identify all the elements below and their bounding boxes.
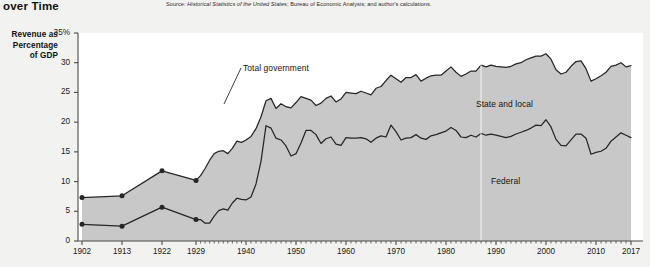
x-axis-tick-label: 1980 [428, 247, 464, 256]
annotation-total-government: Total government [243, 63, 309, 73]
annotation-state-and-local: State and local [476, 99, 533, 109]
x-axis-tick-label: 1929 [178, 247, 214, 256]
x-axis-tick-label: 1902 [64, 247, 100, 256]
marker-federal [160, 205, 165, 210]
y-axis-tick-label: 30 [24, 58, 70, 67]
x-axis-tick-label: 2017 [613, 247, 649, 256]
x-axis-tick-label: 1960 [328, 247, 364, 256]
x-axis-tick-label: 2000 [528, 247, 564, 256]
chart-svg [0, 0, 650, 267]
x-axis-tick-label: 1970 [378, 247, 414, 256]
marker-total-government [80, 195, 85, 200]
marker-total-government [160, 168, 165, 173]
x-axis-tick-label: 1990 [478, 247, 514, 256]
marker-federal [120, 224, 125, 229]
x-axis-tick-label: 1922 [144, 247, 180, 256]
x-axis-tick-label: 2010 [578, 247, 614, 256]
y-axis-tick-label: 10 [24, 177, 70, 186]
x-axis-tick-label: 1940 [228, 247, 264, 256]
y-axis-tick-label: 0 [24, 236, 70, 245]
plot-area [0, 0, 650, 267]
y-axis-tick-label: 20 [24, 117, 70, 126]
marker-federal [80, 222, 85, 227]
marker-total-government [120, 193, 125, 198]
annotation-federal: Federal [491, 176, 520, 186]
marker-total-government [194, 178, 199, 183]
figure-root: over Time Source: Historical Statistics … [0, 0, 650, 267]
y-axis-tick-label: 35% [24, 28, 70, 37]
y-axis-tick-label: 15 [24, 147, 70, 156]
x-axis-tick-label: 1950 [278, 247, 314, 256]
y-axis-tick-label: 5 [24, 206, 70, 215]
y-axis-tick-label: 25 [24, 87, 70, 96]
x-axis-tick-label: 1913 [104, 247, 140, 256]
marker-federal [194, 217, 199, 222]
